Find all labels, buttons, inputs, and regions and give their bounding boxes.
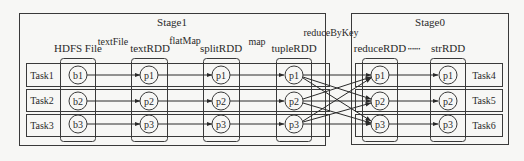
task-label-2: Task2 [30,95,54,106]
node-tuplerdd-p3: p3 [289,119,299,130]
column-label-hdfs-file: HDFS File [54,42,102,54]
node-splitrdd-p3: p3 [216,119,226,130]
node-reducerdd-p2: p2 [375,96,385,107]
column-label-splitrdd: splitRDD [200,42,242,54]
transform-reducebykey: reduceByKey [304,27,359,38]
transform-map: map [248,36,265,47]
node-tuplerdd-p1: p1 [289,70,299,81]
node-strrdd-p1: p1 [443,70,453,81]
stage0-label: Stage0 [415,16,445,28]
node-hdfs-b2: b2 [73,96,83,107]
node-hdfs-b1: b1 [73,70,83,81]
stage1-label: Stage1 [157,16,187,28]
node-textrdd-p2: p2 [144,96,154,107]
partition-nodes [69,66,457,133]
column-label-tuplerdd: tupleRDD [271,42,316,54]
node-tuplerdd-p2: p2 [289,96,299,107]
stage1-box [20,14,326,146]
task-label-4: Task4 [472,70,496,81]
column-label-reducerdd: reduceRDD [354,42,407,54]
rdd-column-boxes [61,59,466,142]
spark-stage-diagram: Stage1 Stage0 HDFS File textRDD splitRDD… [0,0,524,161]
node-textrdd-p1: p1 [144,70,154,81]
task-label-3: Task3 [30,120,54,131]
node-strrdd-p2: p2 [443,96,453,107]
node-splitrdd-p1: p1 [216,70,226,81]
transform-textfile: textFile [98,36,129,47]
node-textrdd-p3: p3 [144,119,154,130]
node-hdfs-b3: b3 [73,119,83,130]
task-label-5: Task5 [472,95,496,106]
column-label-strrdd: strRDD [431,42,465,54]
node-strrdd-p3: p3 [443,119,453,130]
node-reducerdd-p3: p3 [375,119,385,130]
node-reducerdd-p1: p1 [375,70,385,81]
task-label-1: Task1 [30,70,54,81]
node-splitrdd-p2: p2 [216,96,226,107]
transform-flatmap: flatMap [169,35,201,46]
shuffle-arrows [303,75,371,124]
ellipsis-dots: •••••• [408,46,421,52]
task-label-6: Task6 [472,120,496,131]
column-label-textrdd: textRDD [130,42,170,54]
